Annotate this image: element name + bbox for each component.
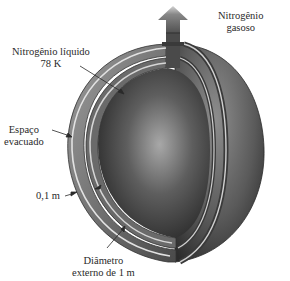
diameter-label-line1: Diâmetro [72, 255, 135, 267]
thickness-label: 0,1 m [36, 190, 60, 202]
liquid-label-line1: Nitrogênio líquido [12, 46, 90, 58]
vacuum-label-line1: Espaço [4, 124, 44, 136]
vacuum-label: Espaço evacuado [4, 124, 44, 148]
gas-label-line1: Nitrogênio [218, 10, 264, 22]
gas-label-line2: gasoso [218, 22, 264, 34]
diagram-canvas: Nitrogênio gasoso Nitrogênio líquido 78 … [0, 0, 290, 281]
thickness-label-line1: 0,1 m [36, 190, 60, 202]
thickness-arrowhead-outer [71, 192, 77, 196]
vacuum-label-line2: evacuado [4, 136, 44, 148]
diameter-label-line2: externo de 1 m [72, 267, 135, 279]
liquid-label: Nitrogênio líquido 78 K [12, 46, 90, 70]
liquid-label-line2: 78 K [12, 58, 90, 70]
gas-label: Nitrogênio gasoso [218, 10, 264, 34]
diameter-label: Diâmetro externo de 1 m [72, 255, 135, 279]
